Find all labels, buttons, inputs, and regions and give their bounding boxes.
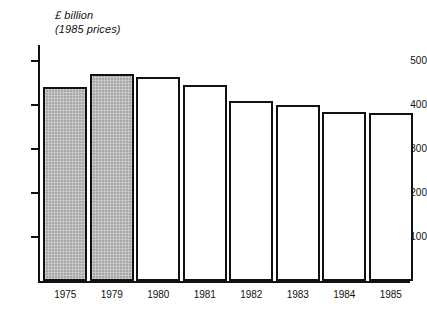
bar-1975 xyxy=(43,87,87,281)
bar-chart-figure: £ billion (1985 prices) 100200300400500 … xyxy=(0,0,427,317)
plot-area: 100200300400500 197519791980198119821983… xyxy=(0,0,427,317)
y-axis-tick-mark xyxy=(31,148,40,150)
x-axis-tick-label: 1984 xyxy=(322,289,366,300)
bar-1983 xyxy=(276,105,320,281)
y-axis-tick-mark xyxy=(31,60,40,62)
y-axis-tick-label: 500 xyxy=(397,55,427,66)
x-axis-tick-label: 1979 xyxy=(90,289,134,300)
bar-1985 xyxy=(369,113,413,281)
bar-1984 xyxy=(322,112,366,281)
bar-1979 xyxy=(90,74,134,281)
y-axis-tick-label: 400 xyxy=(397,99,427,110)
y-axis-tick-mark xyxy=(31,236,40,238)
y-axis-tick-mark xyxy=(31,104,40,106)
bar-1982 xyxy=(229,101,273,281)
x-axis-tick-label: 1975 xyxy=(43,289,87,300)
x-axis-tick-label: 1983 xyxy=(276,289,320,300)
y-axis-line xyxy=(38,45,40,283)
bar-1981 xyxy=(183,85,227,281)
x-axis-tick-label: 1981 xyxy=(183,289,227,300)
x-axis-tick-label: 1985 xyxy=(369,289,413,300)
bar-1980 xyxy=(136,77,180,281)
x-axis-tick-label: 1980 xyxy=(136,289,180,300)
x-axis-tick-label: 1982 xyxy=(229,289,273,300)
x-axis-line xyxy=(38,281,410,283)
y-axis-tick-mark xyxy=(31,192,40,194)
